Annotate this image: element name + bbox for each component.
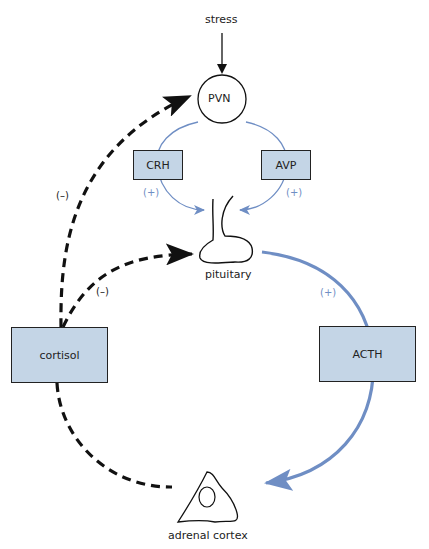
crh-box: CRH — [133, 150, 183, 180]
pvn-label: PVN — [208, 92, 230, 105]
pituitary-minus-sign: (–) — [96, 286, 109, 297]
avp-box: AVP — [261, 150, 311, 180]
avp-plus-sign: (+) — [286, 187, 302, 198]
cortisol-pit-feedback — [63, 254, 192, 327]
crh-label: CRH — [146, 159, 170, 172]
stress-label: stress — [205, 13, 238, 26]
acth-plus-sign: (+) — [320, 287, 336, 298]
pituitary-label: pituitary — [205, 268, 251, 281]
adrenal-cortisol-link — [57, 383, 172, 487]
adrenal-cortex-label: adrenal cortex — [168, 529, 248, 542]
avp-label: AVP — [276, 159, 297, 172]
pituitary-shape — [200, 196, 253, 263]
pvn-minus-sign: (–) — [56, 190, 69, 201]
crh-plus-sign: (+) — [143, 187, 159, 198]
cortisol-label: cortisol — [39, 349, 79, 362]
adrenal-shape — [178, 472, 238, 522]
acth-box: ACTH — [319, 326, 416, 382]
cortisol-box: cortisol — [11, 327, 108, 383]
cortisol-pvn-feedback — [61, 96, 190, 327]
acth-label: ACTH — [352, 348, 382, 361]
